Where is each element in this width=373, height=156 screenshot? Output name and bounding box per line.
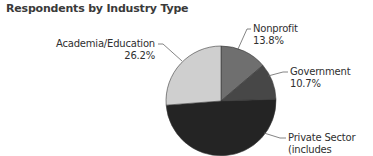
label-academia: Academia/Education 26.2% — [56, 38, 155, 62]
leader-line-private — [264, 133, 286, 138]
pie-slice-private — [166, 99, 276, 156]
label-nonprofit-pct: 13.8% — [253, 35, 298, 47]
leader-line-academia — [158, 44, 182, 61]
label-nonprofit-name: Nonprofit — [253, 23, 298, 35]
label-private-sector: Private Sector (includes — [288, 132, 355, 156]
leader-line-government — [268, 72, 288, 76]
label-private-name: Private Sector — [288, 132, 355, 144]
label-nonprofit: Nonprofit 13.8% — [253, 23, 298, 47]
pie-slices — [166, 46, 276, 156]
label-private-name2: (includes — [288, 144, 355, 156]
label-government-name: Government — [290, 66, 350, 78]
pie-slice-academiaeducation — [166, 46, 221, 105]
label-academia-pct: 26.2% — [56, 50, 155, 62]
label-government: Government 10.7% — [290, 66, 350, 90]
label-government-pct: 10.7% — [290, 78, 350, 90]
leader-line-nonprofit — [238, 29, 251, 49]
label-academia-name: Academia/Education — [56, 38, 155, 50]
